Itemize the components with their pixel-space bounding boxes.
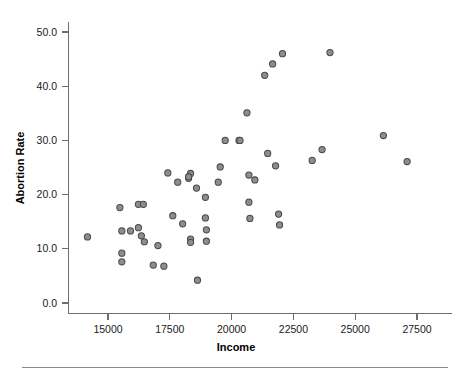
data-point bbox=[244, 110, 250, 116]
data-point bbox=[404, 158, 410, 164]
data-point bbox=[170, 213, 176, 219]
data-point bbox=[187, 239, 193, 245]
x-tick-label: 15000 bbox=[93, 323, 122, 335]
data-point bbox=[203, 227, 209, 233]
data-point bbox=[380, 132, 386, 138]
data-point bbox=[327, 50, 333, 56]
data-point bbox=[84, 234, 90, 240]
y-tick-label: 10.0 bbox=[37, 242, 58, 254]
data-point bbox=[262, 72, 268, 78]
data-point bbox=[275, 211, 281, 217]
y-tick-label: 0.0 bbox=[42, 297, 57, 309]
data-point bbox=[279, 51, 285, 57]
y-tick-label: 50.0 bbox=[37, 26, 58, 38]
x-tick-label: 22500 bbox=[279, 323, 308, 335]
data-point bbox=[119, 228, 125, 234]
data-point bbox=[203, 238, 209, 244]
data-point bbox=[237, 137, 243, 143]
x-tick-label: 17500 bbox=[155, 323, 184, 335]
y-tick-label: 20.0 bbox=[37, 188, 58, 200]
data-point bbox=[309, 157, 315, 163]
data-point bbox=[215, 179, 221, 185]
data-point bbox=[165, 170, 171, 176]
x-tick-label: 27500 bbox=[402, 323, 431, 335]
data-point bbox=[202, 215, 208, 221]
data-point bbox=[193, 185, 199, 191]
data-point bbox=[194, 277, 200, 283]
data-point bbox=[119, 259, 125, 265]
data-point bbox=[319, 147, 325, 153]
scatter-plot-figure: 0.010.020.030.040.050.0 1500017500200002… bbox=[0, 0, 463, 380]
data-point bbox=[127, 228, 133, 234]
data-point bbox=[135, 225, 141, 231]
y-tick-label: 40.0 bbox=[37, 80, 58, 92]
data-point bbox=[276, 222, 282, 228]
data-point bbox=[155, 242, 161, 248]
data-point bbox=[117, 205, 123, 211]
x-tick-label: 25000 bbox=[341, 323, 370, 335]
data-point bbox=[270, 61, 276, 67]
data-point bbox=[185, 174, 191, 180]
data-point bbox=[247, 215, 253, 221]
x-axis-title: Income bbox=[217, 341, 256, 353]
data-point bbox=[246, 199, 252, 205]
plot-canvas: 0.010.020.030.040.050.0 1500017500200002… bbox=[0, 0, 463, 380]
data-point bbox=[138, 233, 144, 239]
data-point bbox=[161, 263, 167, 269]
data-point bbox=[273, 163, 279, 169]
data-point bbox=[252, 177, 258, 183]
x-tick-label: 20000 bbox=[217, 323, 246, 335]
data-point bbox=[222, 137, 228, 143]
y-axis-title: Abortion Rate bbox=[14, 132, 26, 205]
data-point bbox=[202, 194, 208, 200]
data-point bbox=[141, 239, 147, 245]
data-point bbox=[246, 172, 252, 178]
data-point bbox=[140, 201, 146, 207]
data-point bbox=[180, 221, 186, 227]
y-tick-label: 30.0 bbox=[37, 134, 58, 146]
data-point bbox=[217, 164, 223, 170]
data-point bbox=[265, 150, 271, 156]
data-point bbox=[175, 179, 181, 185]
data-point bbox=[119, 250, 125, 256]
data-point bbox=[150, 262, 156, 268]
